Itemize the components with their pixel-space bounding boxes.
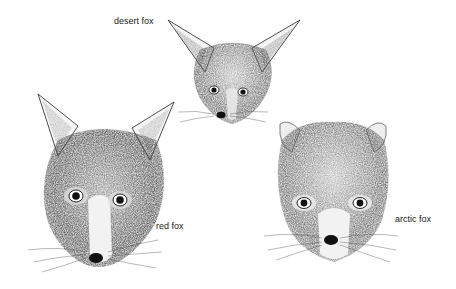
label-desert-fox: desert fox: [114, 16, 154, 26]
arctic-fox-head: [264, 122, 398, 262]
fox-illustration: desert fox red fox arctic fox: [0, 0, 456, 289]
fox-heads-drawing: [0, 0, 456, 289]
label-arctic-fox: arctic fox: [395, 214, 431, 224]
desert-fox-head: [168, 20, 300, 124]
label-red-fox: red fox: [156, 221, 184, 231]
red-fox-head: [28, 94, 174, 272]
